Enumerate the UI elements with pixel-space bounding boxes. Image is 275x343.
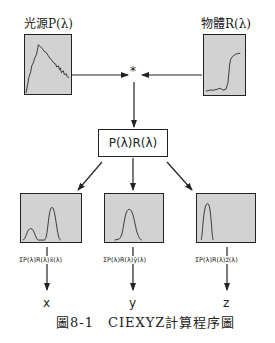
output-y: y <box>129 296 136 310</box>
y-sum-label: ΣP(λ)R(λ)ȳ(λ) <box>103 256 146 264</box>
output-z: z <box>223 296 229 310</box>
output-x: x <box>43 296 50 310</box>
z-sum-label: ΣP(λ)R(λ)z̄(λ) <box>195 256 238 264</box>
x-sum-label: ΣP(λ)R(λ)x̄(λ) <box>19 256 62 264</box>
flow-arrows <box>0 0 275 343</box>
figure-caption: 圖8-1 CIEXYZ計算程序圖 <box>56 312 235 331</box>
